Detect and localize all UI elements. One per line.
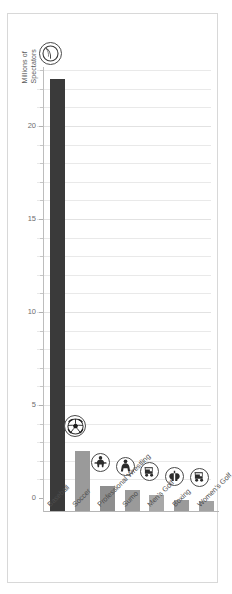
chart-frame: Millions of Spectators 05101520 Baseball…: [7, 13, 218, 583]
y-tick-label: 20: [16, 122, 36, 130]
x-axis-line: [44, 511, 219, 512]
y-axis-title-line2: Spectators: [29, 6, 38, 84]
baseball-icon: [39, 42, 62, 65]
y-axis-title-line1: Millions of: [21, 6, 30, 84]
y-tick-label: 15: [16, 215, 36, 223]
y-tick-label: 0: [16, 494, 36, 502]
y-tick-label: 10: [16, 308, 36, 316]
golf-cart-icon: [190, 468, 209, 487]
plot-area: [44, 67, 218, 511]
y-tick-label: 5: [16, 401, 36, 409]
y-axis-title: Millions of Spectators: [21, 6, 38, 84]
wrestler-icon: [91, 453, 110, 472]
bar-baseball[interactable]: [50, 79, 65, 511]
